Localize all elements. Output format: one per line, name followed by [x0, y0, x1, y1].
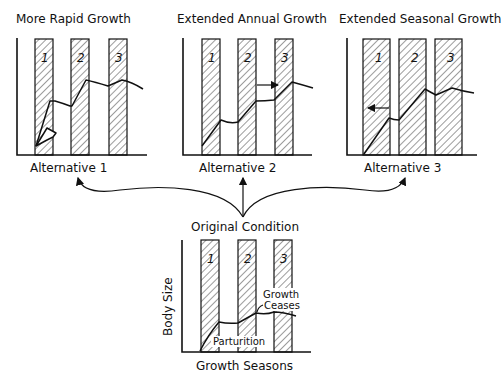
- panel-alternative-1: More Rapid Growth 1 2 3 Alternative 1: [16, 12, 147, 175]
- parturition-label: Parturition: [213, 336, 265, 347]
- season-label-2: 2: [77, 51, 85, 65]
- panel-title: Extended Seasonal Growth: [339, 12, 501, 26]
- x-axis-label: Growth Seasons: [196, 359, 293, 373]
- season-label-2: 2: [411, 51, 419, 65]
- panel-alternative-3: Extended Seasonal Growth 1 2 3 Alternati…: [339, 12, 501, 175]
- panel-title: Original Condition: [191, 220, 299, 234]
- connector-arrows: [78, 178, 405, 217]
- season-label-1: 1: [207, 252, 215, 266]
- y-axis-label: Body Size: [161, 277, 175, 336]
- season-label-3: 3: [115, 51, 123, 65]
- growth-alternatives-diagram: More Rapid Growth 1 2 3 Alternative 1 Ex…: [0, 0, 501, 382]
- panel-caption: Alternative 1: [30, 161, 107, 175]
- season-label-1: 1: [375, 51, 383, 65]
- growth-ceases-label-line2: Ceases: [264, 300, 300, 311]
- growth-ceases-label-line1: Growth: [263, 289, 299, 300]
- season-label-1: 1: [208, 51, 216, 65]
- panel-caption: Alternative 2: [199, 161, 276, 175]
- season-label-3: 3: [281, 51, 289, 65]
- season-label-3: 3: [447, 51, 455, 65]
- panel-title: Extended Annual Growth: [177, 12, 327, 26]
- arrow-to-alternative-3: [243, 178, 405, 217]
- panel-original-condition: Original Condition 1 2 3 Parturition Gro…: [161, 220, 311, 373]
- season-label-3: 3: [280, 252, 288, 266]
- season-label-2: 2: [244, 51, 252, 65]
- season-label-2: 2: [244, 252, 252, 266]
- panel-alternative-2: Extended Annual Growth 1 2 3 Alternative…: [177, 12, 327, 175]
- arrow-to-alternative-1: [78, 178, 243, 217]
- panel-caption: Alternative 3: [364, 161, 441, 175]
- panel-title: More Rapid Growth: [16, 12, 131, 26]
- season-label-1: 1: [41, 51, 49, 65]
